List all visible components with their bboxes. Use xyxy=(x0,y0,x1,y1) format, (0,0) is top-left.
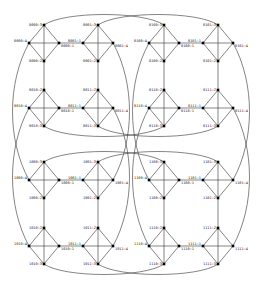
long-arc xyxy=(113,108,130,246)
long-arc xyxy=(44,152,164,163)
graph-svg: 0000:30000:40000:10000:20001:30001:10001… xyxy=(0,0,260,291)
graph-node xyxy=(28,179,31,182)
long-arc-edges xyxy=(13,15,250,275)
graph-node xyxy=(217,125,220,128)
graph-node xyxy=(178,179,181,182)
node-label: 1100:4 xyxy=(134,176,147,180)
node-label: 0110:3 xyxy=(149,124,162,128)
node-label: 1101:2 xyxy=(203,196,216,200)
cluster-edge xyxy=(164,108,179,126)
cluster-edge xyxy=(164,246,179,264)
cluster-edge xyxy=(44,108,59,126)
node-label: 1100:1 xyxy=(181,181,194,185)
cluster-edge xyxy=(98,162,113,180)
node-label: 0010:2 xyxy=(29,88,42,92)
graph-node xyxy=(202,107,205,110)
cluster-edge xyxy=(203,162,218,180)
cluster-edge xyxy=(98,180,113,198)
node-label: 0101:1 xyxy=(188,39,201,43)
node-label: 1010:1 xyxy=(61,247,74,251)
graph-node xyxy=(202,245,205,248)
node-label: 0011:4 xyxy=(115,109,128,113)
node-label: 0111:3 xyxy=(203,124,216,128)
long-arc xyxy=(133,43,150,180)
graph-node xyxy=(43,60,46,63)
cluster-edge xyxy=(83,90,98,108)
node-label: 0101:2 xyxy=(203,59,216,63)
node-label: 1110:2 xyxy=(149,226,162,230)
cluster-edge xyxy=(98,246,113,264)
node-label: 1011:2 xyxy=(83,226,96,230)
node-label: 1011:3 xyxy=(83,262,96,266)
graph-node xyxy=(163,24,166,27)
cluster-edge xyxy=(164,180,179,198)
graph-node xyxy=(82,107,85,110)
node-label: 1111:2 xyxy=(203,226,216,230)
graph-node xyxy=(82,179,85,182)
long-arc xyxy=(44,126,164,137)
cluster-edge xyxy=(44,43,59,61)
graph-node xyxy=(232,107,235,110)
node-label: 0101:4 xyxy=(235,44,248,48)
node-labels: 0000:30000:40000:10000:20001:30001:10001… xyxy=(14,23,248,266)
cluster-edge xyxy=(203,228,218,246)
node-label: 1010:2 xyxy=(29,226,42,230)
node-label: 1011:1 xyxy=(68,242,81,246)
graph-node xyxy=(217,197,220,200)
graph-node xyxy=(163,227,166,230)
cluster-edge xyxy=(164,90,179,108)
cluster-edge xyxy=(29,25,44,43)
node-label: 0100:3 xyxy=(149,23,162,27)
cluster-edge xyxy=(98,25,113,43)
graph-node xyxy=(97,161,100,164)
graph-node xyxy=(58,245,61,248)
node-label: 0001:3 xyxy=(83,23,96,27)
cluster-edge xyxy=(218,108,233,126)
node-label: 1000:4 xyxy=(14,176,27,180)
node-label: 0010:3 xyxy=(29,124,42,128)
graph-node xyxy=(97,227,100,230)
node-label: 0100:2 xyxy=(149,59,162,63)
long-arc xyxy=(233,108,250,246)
cluster-edge xyxy=(149,25,164,43)
cluster-edge xyxy=(164,43,179,61)
graph-node xyxy=(97,197,100,200)
cluster-edge xyxy=(98,90,113,108)
cluster-edge xyxy=(29,90,44,108)
graph-node xyxy=(43,227,46,230)
node-label: 0011:2 xyxy=(83,88,96,92)
graph-node xyxy=(28,42,31,45)
graph-node xyxy=(112,42,115,45)
graph-node xyxy=(163,197,166,200)
node-label: 0110:1 xyxy=(181,109,194,113)
node-label: 1001:3 xyxy=(83,160,96,164)
long-arc xyxy=(13,43,30,180)
node-label: 1110:1 xyxy=(181,247,194,251)
graph-node xyxy=(178,245,181,248)
node-label: 0100:1 xyxy=(181,44,194,48)
cluster-edge xyxy=(44,228,59,246)
node-label: 0110:2 xyxy=(149,88,162,92)
long-arc xyxy=(44,15,164,26)
graph-node xyxy=(217,227,220,230)
node-label: 0000:2 xyxy=(29,59,42,63)
graph-node xyxy=(28,107,31,110)
graph-node xyxy=(82,42,85,45)
node-label: 1001:1 xyxy=(68,176,81,180)
node-label: 1101:3 xyxy=(203,160,216,164)
graph-node xyxy=(217,60,220,63)
graph-node xyxy=(97,60,100,63)
node-label: 0101:3 xyxy=(203,23,216,27)
graph-node xyxy=(163,60,166,63)
graph-node xyxy=(232,42,235,45)
cluster-edge xyxy=(83,162,98,180)
cluster-edge xyxy=(44,25,59,43)
node-label: 0010:4 xyxy=(14,104,27,108)
graph-node xyxy=(178,42,181,45)
node-label: 1010:4 xyxy=(14,242,27,246)
cluster-edge xyxy=(164,162,179,180)
node-label: 0001:2 xyxy=(83,59,96,63)
graph-node xyxy=(112,245,115,248)
graph-node xyxy=(97,263,100,266)
node-label: 0001:1 xyxy=(68,39,81,43)
